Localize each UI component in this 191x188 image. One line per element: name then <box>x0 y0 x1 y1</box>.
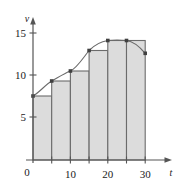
chart-canvas: 15 10 5 0 10 20 30 v t <box>0 0 191 188</box>
y-axis-arrow-icon <box>30 17 36 25</box>
x-tick-label-20: 20 <box>102 168 114 180</box>
marker-point-5 <box>125 39 129 43</box>
y-tick-label-5: 5 <box>21 111 27 123</box>
origin-label: 0 <box>24 166 30 178</box>
y-axis-label: v <box>25 13 30 24</box>
bar-5 <box>127 41 146 161</box>
bar-3 <box>89 51 108 161</box>
marker-point-3 <box>87 49 91 53</box>
y-tick-label-15: 15 <box>15 27 27 39</box>
y-tick-label-10: 10 <box>15 69 27 81</box>
velocity-step-chart: 15 10 5 0 10 20 30 v t <box>0 0 191 188</box>
bar-2 <box>70 71 89 160</box>
bar-4 <box>108 41 127 161</box>
x-tick-label-30: 30 <box>140 168 152 180</box>
x-axis-arrow-icon <box>165 157 173 163</box>
marker-point-2 <box>69 69 73 73</box>
x-tick-label-10: 10 <box>65 168 77 180</box>
bar-0 <box>33 96 52 160</box>
marker-point-6 <box>143 52 147 56</box>
x-axis-label: t <box>170 167 173 178</box>
marker-point-4 <box>106 39 110 43</box>
bar-series <box>33 41 145 161</box>
bar-1 <box>52 81 71 160</box>
marker-point-1 <box>50 79 54 83</box>
